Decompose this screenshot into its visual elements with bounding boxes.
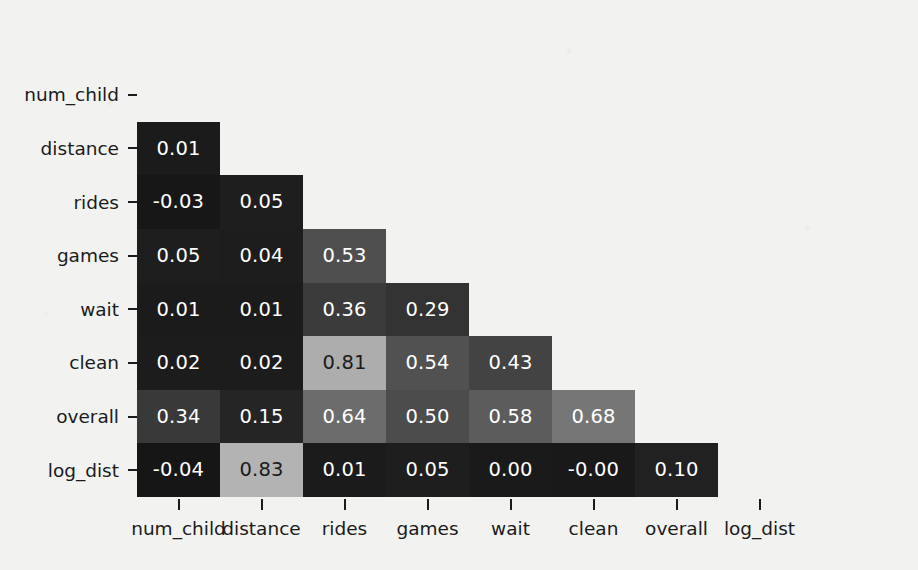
heatmap-cell-value: 0.04 <box>239 246 283 266</box>
y-axis: num_childdistanceridesgameswaitcleanover… <box>0 0 119 570</box>
heatmap-cell: 0.81 <box>303 336 386 390</box>
x-tick-label-log_dist: log_dist <box>724 518 795 539</box>
heatmap-cell-value: -0.00 <box>568 460 619 480</box>
heatmap-cell-value: 0.05 <box>156 246 200 266</box>
heatmap-cell: 0.01 <box>303 443 386 497</box>
heatmap-cell: 0.05 <box>386 443 469 497</box>
heatmap-cell: 0.34 <box>137 390 220 444</box>
correlation-heatmap-figure: num_childdistanceridesgameswaitcleanover… <box>0 0 918 570</box>
heatmap-cell-value: 0.05 <box>405 460 449 480</box>
x-tick-label-distance: distance <box>222 518 300 539</box>
y-tick-mark <box>128 416 137 418</box>
heatmap-cell-value: 0.54 <box>405 353 449 373</box>
x-tick-label-rides: rides <box>322 518 368 539</box>
heatmap-cell: 0.04 <box>220 229 303 283</box>
heatmap-cell: 0.29 <box>386 283 469 337</box>
heatmap-cell-value: 0.34 <box>156 407 200 427</box>
heatmap-cell-value: 0.01 <box>322 460 366 480</box>
x-tick-label-wait: wait <box>491 518 530 539</box>
heatmap-cell: 0.01 <box>137 122 220 176</box>
heatmap-cell: 0.83 <box>220 443 303 497</box>
heatmap-cell-value: 0.68 <box>571 407 615 427</box>
x-tick-mark <box>593 499 595 510</box>
heatmap-cell-value: 0.43 <box>488 353 532 373</box>
heatmap-cell: -0.04 <box>137 443 220 497</box>
heatmap-cell-value: 0.00 <box>488 460 532 480</box>
x-tick-label-games: games <box>396 518 458 539</box>
heatmap-cell-value: 0.15 <box>239 407 283 427</box>
x-tick-label-clean: clean <box>569 518 619 539</box>
heatmap-cell: 0.02 <box>137 336 220 390</box>
x-tick-mark <box>261 499 263 510</box>
heatmap-cell-value: -0.04 <box>153 460 204 480</box>
heatmap-cell-value: 0.10 <box>654 460 698 480</box>
heatmap-cell: -0.03 <box>137 175 220 229</box>
heatmap-plot-area: 0.01-0.030.050.050.040.530.010.010.360.2… <box>137 68 801 497</box>
x-tick-mark <box>759 499 761 510</box>
heatmap-cell: -0.00 <box>552 443 635 497</box>
heatmap-cell-value: 0.81 <box>322 353 366 373</box>
heatmap-cell: 0.36 <box>303 283 386 337</box>
y-tick-mark <box>128 469 137 471</box>
heatmap-cell: 0.54 <box>386 336 469 390</box>
heatmap-cell-value: 0.36 <box>322 300 366 320</box>
x-tick-label-overall: overall <box>645 518 708 539</box>
heatmap-cell-value: 0.02 <box>239 353 283 373</box>
heatmap-cell-value: 0.01 <box>239 300 283 320</box>
heatmap-cell-value: 0.50 <box>405 407 449 427</box>
y-tick-mark <box>128 308 137 310</box>
heatmap-cell: 0.15 <box>220 390 303 444</box>
heatmap-cell-value: 0.02 <box>156 353 200 373</box>
heatmap-cell: 0.10 <box>635 443 718 497</box>
x-tick-mark <box>676 499 678 510</box>
y-tick-mark <box>128 94 137 96</box>
heatmap-cell: 0.00 <box>469 443 552 497</box>
heatmap-cell: 0.53 <box>303 229 386 283</box>
heatmap-cell-value: 0.83 <box>239 460 283 480</box>
y-tick-mark <box>128 255 137 257</box>
heatmap-cell: 0.43 <box>469 336 552 390</box>
x-tick-mark <box>344 499 346 510</box>
heatmap-cell-value: 0.29 <box>405 300 449 320</box>
heatmap-cell: 0.68 <box>552 390 635 444</box>
x-tick-mark <box>427 499 429 510</box>
heatmap-cell: 0.01 <box>220 283 303 337</box>
x-tick-mark <box>178 499 180 510</box>
heatmap-cell-value: 0.01 <box>156 139 200 159</box>
heatmap-cell: 0.64 <box>303 390 386 444</box>
heatmap-cell: 0.05 <box>137 229 220 283</box>
heatmap-cell-value: 0.53 <box>322 246 366 266</box>
y-tick-mark <box>128 201 137 203</box>
heatmap-cell-value: -0.03 <box>153 192 204 212</box>
heatmap-cell-value: 0.01 <box>156 300 200 320</box>
heatmap-cell: 0.58 <box>469 390 552 444</box>
heatmap-cell-value: 0.05 <box>239 192 283 212</box>
x-tick-mark <box>510 499 512 510</box>
x-tick-label-num_child: num_child <box>131 518 226 539</box>
heatmap-cell-value: 0.58 <box>488 407 532 427</box>
heatmap-cell: 0.02 <box>220 336 303 390</box>
heatmap-cell: 0.01 <box>137 283 220 337</box>
x-axis: num_childdistanceridesgameswaitcleanover… <box>0 518 918 552</box>
y-tick-mark <box>128 362 137 364</box>
heatmap-cell: 0.05 <box>220 175 303 229</box>
heatmap-cell-value: 0.64 <box>322 407 366 427</box>
heatmap-cell: 0.50 <box>386 390 469 444</box>
y-tick-mark <box>128 147 137 149</box>
